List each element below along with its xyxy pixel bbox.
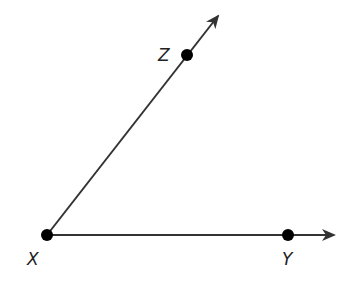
- label-y: Y: [282, 249, 294, 269]
- point-y: [282, 229, 294, 241]
- label-x: X: [26, 249, 39, 269]
- point-z: [181, 49, 193, 61]
- label-z: Z: [157, 45, 170, 65]
- diagram-svg: Z X Y: [0, 0, 357, 294]
- ray-xz: [47, 16, 218, 235]
- angle-diagram: Z X Y: [0, 0, 357, 294]
- point-x: [41, 229, 53, 241]
